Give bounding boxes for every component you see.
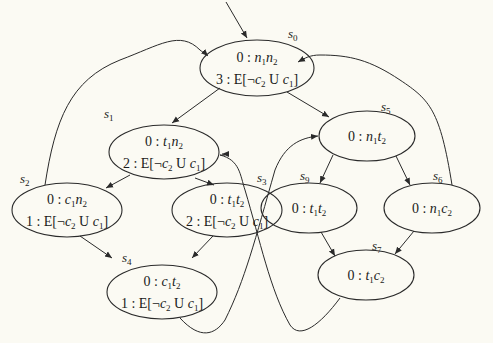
edge-s9-s7: [321, 232, 335, 256]
state-line1: 0 : n1t2: [348, 129, 386, 146]
state-s1: s1 0 : t1n2 2 : E[¬c2 U c1]: [104, 106, 219, 179]
state-line2: 1 : E[¬c2 U c1]: [26, 214, 108, 231]
state-s0: s0 0 : n1n2 3 : E[¬c2 U c1]: [200, 26, 314, 96]
state-label: s4: [122, 250, 132, 267]
state-s2: s2 0 : c1n2 1 : E[¬c2 U c1]: [12, 171, 122, 237]
state-line1: 0 : n1c2: [412, 201, 452, 218]
edge-s3-s4: [192, 236, 213, 258]
state-line1: 0 : t1t2: [292, 201, 327, 218]
state-ellipse: [200, 40, 314, 96]
state-label: s6: [433, 168, 443, 185]
state-s6: s6 0 : n1c2: [384, 168, 480, 233]
edge-s5-s6: [396, 156, 410, 185]
state-label: s5: [381, 99, 391, 116]
state-label: s1: [104, 106, 114, 123]
initial-arrow: [226, 2, 247, 38]
state-line2: 2 : E[¬c2 U c1]: [123, 156, 205, 173]
state-line1: 0 : n1n2: [237, 50, 278, 67]
state-line2: 2 : E[¬c2 U c1]: [186, 214, 268, 231]
state-line1: 0 : t1n2: [145, 134, 183, 151]
edge-s7-s1: [220, 154, 340, 331]
edge-s1-s2: [106, 175, 130, 188]
state-line1: 0 : t1t2: [210, 192, 245, 209]
edge-s5-s9: [320, 155, 333, 183]
state-label: s9: [300, 168, 310, 185]
edge-s2-s4: [80, 236, 112, 258]
state-s7: s7 0 : t1c2: [318, 238, 414, 300]
kripke-diagram: s0 0 : n1n2 3 : E[¬c2 U c1] s1 0 : t1n2 …: [0, 0, 493, 343]
state-line2: 1 : E[¬c2 U c1]: [121, 296, 203, 313]
state-s4: s4 0 : c1t2 1 : E[¬c2 U c1]: [107, 250, 217, 319]
state-line1: 0 : c1t2: [144, 274, 181, 291]
edge-s6-s7: [395, 231, 414, 254]
state-line2: 3 : E[¬c2 U c1]: [216, 72, 298, 89]
state-line1: 0 : t1c2: [348, 268, 385, 285]
edge-s0-s1: [172, 88, 220, 123]
edge-s6-s0: [298, 55, 452, 185]
state-label: s7: [372, 238, 382, 255]
state-label: s0: [288, 26, 298, 43]
state-line1: 0 : c1n2: [47, 192, 87, 209]
state-s5: s5 0 : n1t2: [319, 99, 415, 161]
state-label: s3: [257, 170, 267, 187]
edge-s0-s5: [287, 92, 329, 117]
state-label: s2: [20, 171, 30, 188]
